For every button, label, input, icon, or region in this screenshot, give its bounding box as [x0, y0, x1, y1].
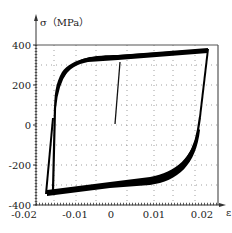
initial-loading-line [115, 62, 120, 124]
x-axis [36, 203, 226, 207]
x-tick-label: 0.01 [143, 209, 165, 220]
y-tick-label: 200 [12, 80, 31, 91]
hysteresis-right-edge [200, 49, 208, 117]
stress-strain-chart: 400 200 0 -200 -400 -0.02 -0.01 0 0.01 0… [0, 0, 232, 233]
y-axis-arrow-icon [34, 14, 38, 21]
y-tick-labels: 400 200 0 -200 -400 [9, 40, 31, 211]
y-tick-label: 400 [12, 40, 31, 51]
x-tick-label: 0.02 [191, 209, 213, 220]
x-tick-label: 0 [108, 209, 114, 220]
x-tick-labels: -0.02 -0.01 0 0.01 0.02 [11, 209, 213, 220]
x-tick-label: -0.02 [11, 209, 37, 220]
x-tick-label: -0.01 [62, 209, 88, 220]
hysteresis-upper-band [54, 49, 208, 112]
y-axis-title: σ（MPa） [40, 17, 89, 28]
hysteresis-left-edge [46, 118, 53, 194]
hysteresis-lower-band [47, 128, 200, 196]
y-axis [33, 14, 38, 206]
x-axis-arrow-icon [219, 203, 226, 207]
y-tick-label: 0 [25, 120, 31, 131]
x-axis-title: ε [226, 207, 231, 218]
y-tick-label: -200 [9, 160, 31, 171]
